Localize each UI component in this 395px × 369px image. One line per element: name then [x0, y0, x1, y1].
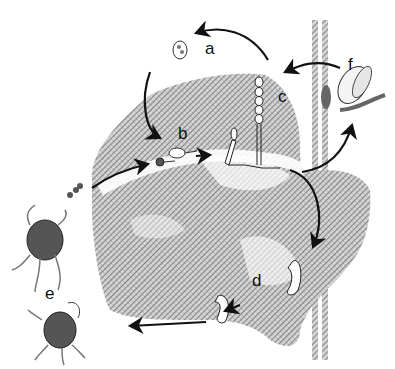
diagram-illustration	[0, 0, 395, 369]
label-e: e	[45, 285, 54, 302]
label-a: a	[205, 40, 214, 57]
flower-bud	[321, 61, 385, 110]
leaf	[92, 74, 370, 346]
sclerotium-lower	[28, 302, 85, 365]
label-f: f	[348, 56, 353, 73]
label-b: b	[178, 125, 187, 142]
small-spores	[67, 183, 83, 198]
life-cycle-diagram: a b c d e f	[0, 0, 395, 369]
label-d: d	[252, 272, 261, 289]
sclerotium-upper	[12, 205, 66, 292]
label-c: c	[278, 88, 287, 105]
spore-a	[173, 41, 187, 59]
